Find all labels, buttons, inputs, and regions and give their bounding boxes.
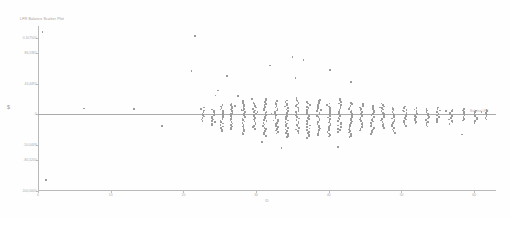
data-point	[393, 116, 395, 118]
data-point	[463, 111, 465, 113]
data-point	[372, 107, 374, 109]
data-point	[264, 101, 266, 103]
data-point	[264, 117, 266, 119]
x-tick-label: 10	[109, 193, 113, 197]
data-point	[276, 105, 278, 107]
data-point	[475, 110, 477, 112]
data-point	[286, 104, 288, 106]
data-point	[382, 112, 384, 114]
data-point	[317, 121, 319, 123]
data-point	[221, 107, 223, 109]
data-point	[463, 113, 465, 115]
data-point	[265, 114, 267, 116]
data-point	[257, 111, 259, 113]
data-point	[370, 125, 372, 127]
data-point	[406, 109, 408, 111]
data-point	[296, 104, 298, 106]
data-point	[285, 121, 287, 123]
data-point	[254, 128, 256, 130]
data-point	[436, 119, 438, 121]
data-point	[203, 107, 205, 109]
data-point	[309, 125, 311, 127]
data-point	[274, 111, 276, 113]
data-point	[161, 125, 163, 127]
data-point	[371, 119, 373, 121]
data-point	[360, 128, 362, 130]
data-point	[255, 123, 257, 125]
data-point	[474, 120, 476, 122]
data-point	[394, 119, 396, 121]
data-point	[275, 117, 277, 119]
y-axis-label: $	[7, 104, 10, 110]
data-point	[427, 113, 429, 115]
data-point	[252, 108, 254, 110]
data-point	[220, 121, 222, 123]
data-point	[284, 106, 286, 108]
data-point	[329, 109, 331, 111]
data-point	[340, 126, 342, 128]
data-point	[349, 130, 351, 132]
data-point	[351, 121, 353, 123]
data-point	[361, 111, 363, 113]
data-point	[275, 103, 277, 105]
data-point	[414, 118, 416, 120]
data-point	[308, 107, 310, 109]
data-point	[349, 136, 351, 138]
data-point	[329, 120, 331, 122]
data-point	[215, 95, 217, 97]
data-point	[340, 107, 342, 109]
data-point	[349, 127, 351, 129]
data-point	[230, 129, 232, 131]
data-point	[439, 110, 441, 112]
data-point	[372, 108, 374, 110]
data-point	[266, 120, 268, 122]
data-point	[309, 104, 311, 106]
y-axis-line	[38, 26, 39, 191]
data-point	[362, 125, 364, 127]
data-point	[253, 125, 255, 127]
data-point	[276, 122, 278, 124]
data-point	[275, 130, 277, 132]
data-point	[393, 127, 395, 129]
data-point	[350, 81, 352, 83]
data-point	[361, 116, 363, 118]
data-point	[329, 115, 331, 117]
data-point	[230, 124, 232, 126]
data-point	[393, 114, 395, 116]
data-point	[329, 69, 331, 71]
data-point	[287, 127, 289, 129]
data-point	[286, 136, 288, 138]
data-point	[350, 119, 352, 121]
data-point	[329, 134, 331, 136]
data-point	[426, 122, 428, 124]
data-point	[230, 115, 232, 117]
data-point	[287, 110, 289, 112]
data-point	[265, 135, 267, 137]
data-point	[382, 109, 384, 111]
data-point	[450, 117, 452, 119]
data-point	[226, 75, 228, 77]
data-point	[317, 107, 319, 109]
data-point	[318, 131, 320, 133]
data-point	[237, 95, 239, 97]
data-point	[461, 134, 463, 136]
y-tick-label: -50,0449	[23, 143, 36, 147]
data-point	[338, 112, 340, 114]
data-point	[306, 112, 308, 114]
data-point	[373, 111, 375, 113]
data-point	[328, 133, 330, 135]
data-point	[286, 115, 288, 117]
data-point	[221, 130, 223, 132]
x-tick-label: 30	[254, 193, 258, 197]
data-point	[328, 129, 330, 131]
data-point	[203, 116, 205, 118]
data-point	[277, 131, 279, 133]
data-point	[359, 130, 361, 132]
data-point	[287, 107, 289, 109]
data-point	[281, 147, 283, 149]
data-point	[394, 132, 396, 134]
data-point	[403, 111, 405, 113]
data-point	[220, 109, 222, 111]
data-point	[42, 31, 44, 33]
data-point	[319, 120, 321, 122]
